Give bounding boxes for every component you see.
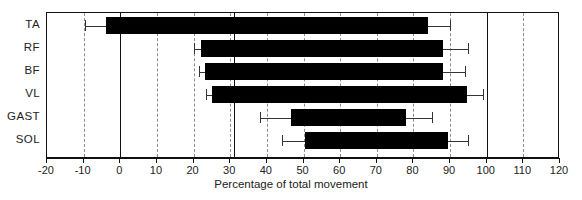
x-tick-label-0: 0 (116, 165, 122, 176)
y-axis-label-bf: BF (0, 65, 40, 77)
gridline-40 (267, 13, 268, 157)
error-cap-high-ta (450, 20, 451, 31)
error-whisker-low-sol (282, 141, 306, 142)
bar-rf (201, 40, 443, 57)
x-tick-label-110: 110 (514, 165, 532, 176)
gridline-30 (230, 13, 231, 157)
gridline-110 (523, 13, 524, 157)
y-axis-label-vl: VL (0, 88, 40, 100)
bar-bf (205, 63, 443, 80)
bar-gast (291, 109, 406, 126)
x-tick-40 (266, 158, 267, 163)
error-whisker-low-ta (85, 26, 105, 27)
error-cap-high-rf (468, 43, 469, 54)
error-whisker-high-sol (448, 141, 468, 142)
y-axis-label-ta: TA (0, 19, 40, 31)
x-tick--10 (83, 158, 84, 163)
gridline-90 (450, 13, 451, 157)
error-cap-low-sol (282, 135, 283, 146)
x-tick-0 (119, 158, 120, 163)
horizontal-bar-chart: TA RF BF VL GAST SOL -20-100102030405060… (0, 0, 582, 200)
x-tick-80 (412, 158, 413, 163)
error-whisker-high-rf (443, 49, 469, 50)
y-axis-label-sol: SOL (0, 134, 40, 146)
y-axis-label-rf: RF (0, 42, 40, 54)
x-tick-110 (522, 158, 523, 163)
x-tick-100 (486, 158, 487, 163)
x-tick-70 (376, 158, 377, 163)
x-tick-50 (303, 158, 304, 163)
x-tick--20 (46, 158, 47, 163)
x-tick-10 (156, 158, 157, 163)
reference-line-100 (487, 12, 488, 158)
error-whisker-low-gast (260, 118, 291, 119)
error-cap-high-vl (483, 89, 484, 100)
x-tick-label-40: 40 (260, 165, 272, 176)
y-axis-label-gast: GAST (0, 111, 40, 123)
x-tick-label-100: 100 (477, 165, 495, 176)
x-tick-20 (193, 158, 194, 163)
error-cap-low-vl (206, 89, 207, 100)
x-tick-label--20: -20 (38, 165, 54, 176)
error-cap-low-bf (199, 66, 200, 77)
x-tick-label-30: 30 (223, 165, 235, 176)
x-tick-label-70: 70 (370, 165, 382, 176)
plot-area (46, 12, 559, 158)
error-cap-high-gast (432, 112, 433, 123)
error-whisker-high-bf (443, 72, 465, 73)
gridline-20 (194, 13, 195, 157)
x-tick-60 (339, 158, 340, 163)
bar-sol (305, 132, 448, 149)
error-whisker-low-rf (194, 49, 201, 50)
gridline-10 (157, 13, 158, 157)
x-tick-label-50: 50 (296, 165, 308, 176)
x-tick-label-90: 90 (443, 165, 455, 176)
error-cap-low-gast (260, 112, 261, 123)
x-tick-30 (229, 158, 230, 163)
x-tick-90 (449, 158, 450, 163)
gridline--10 (84, 13, 85, 157)
error-whisker-high-ta (428, 26, 450, 27)
bar-vl (212, 86, 467, 103)
error-whisker-high-gast (406, 118, 432, 119)
x-tick-label-120: 120 (550, 165, 568, 176)
error-cap-low-rf (194, 43, 195, 54)
error-cap-high-bf (465, 66, 466, 77)
x-tick-label-80: 80 (406, 165, 418, 176)
error-cap-high-sol (468, 135, 469, 146)
x-tick-label-60: 60 (333, 165, 345, 176)
x-axis-title: Percentage of total movement (0, 179, 582, 191)
x-tick-label-20: 20 (186, 165, 198, 176)
error-cap-low-ta (85, 20, 86, 31)
x-tick-120 (559, 158, 560, 163)
x-tick-label-10: 10 (150, 165, 162, 176)
x-tick-label--10: -10 (75, 165, 91, 176)
error-whisker-high-vl (467, 95, 483, 96)
bar-ta (106, 17, 428, 34)
